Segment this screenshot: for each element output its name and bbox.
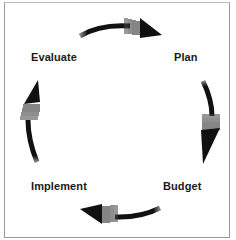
arrow-implement-to-evaluate — [20, 80, 40, 162]
cycle-arrows — [0, 0, 236, 240]
node-implement: Implement — [31, 180, 87, 192]
node-plan: Plan — [174, 51, 198, 63]
node-budget: Budget — [163, 180, 201, 192]
arrow-evaluate-to-plan — [80, 18, 162, 38]
arrow-budget-to-implement — [80, 204, 160, 224]
arrow-plan-to-budget — [201, 81, 220, 164]
node-evaluate: Evaluate — [31, 51, 77, 63]
